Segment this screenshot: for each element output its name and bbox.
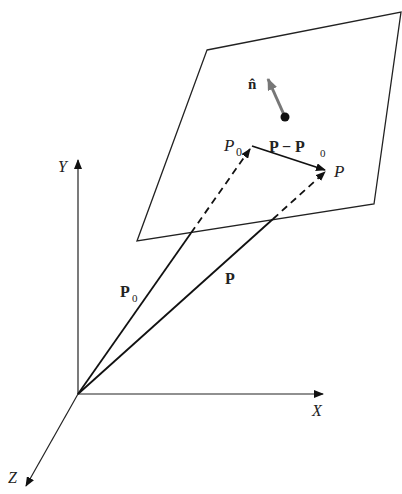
difference-vector-label: P − P 0 (269, 138, 326, 159)
x-axis-label: X (311, 402, 323, 419)
plane (137, 12, 401, 241)
p-vector-dashed (273, 172, 325, 219)
svg-text:0: 0 (132, 292, 138, 304)
normal-base-point (281, 113, 290, 122)
z-axis-label: Z (8, 469, 18, 486)
point-p0-label: P 0 (223, 136, 242, 159)
p0-vector-label: P 0 (120, 283, 138, 304)
normal-label: n̂ (248, 76, 257, 92)
point-p-label: P (333, 162, 344, 181)
normal-vector (268, 79, 285, 117)
p0-vector-dashed (191, 149, 250, 233)
plane-diagram: X Y Z n̂ P 0 P P − P 0 P 0 P (0, 0, 402, 494)
svg-text:P: P (120, 283, 130, 300)
svg-text:0: 0 (236, 145, 242, 159)
p-vector-solid (78, 219, 273, 394)
p-vector-label: P (225, 270, 235, 287)
z-axis (26, 394, 78, 486)
svg-text:0: 0 (320, 147, 326, 159)
y-axis-label: Y (58, 158, 69, 175)
p0-vector-solid (78, 233, 191, 394)
svg-text:P: P (223, 136, 234, 155)
svg-text:P − P: P − P (269, 138, 305, 155)
